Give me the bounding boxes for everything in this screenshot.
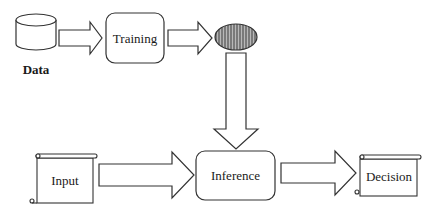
neural-net-model-icon	[215, 24, 257, 50]
training-label: Training	[113, 31, 158, 46]
arrow-input-to-inference	[99, 152, 194, 198]
decision-label: Decision	[366, 169, 413, 184]
arrow-inference-to-decision	[281, 151, 356, 195]
data-label: Data	[23, 62, 50, 77]
arrow-model-to-inference	[214, 53, 258, 149]
data-cylinder-icon	[16, 14, 56, 50]
arrow-training-to-model	[168, 22, 212, 54]
inference-label: Inference	[211, 168, 260, 183]
ml-pipeline-diagram: Data Training Input Inference Decision	[0, 0, 435, 210]
arrow-data-to-training	[59, 22, 102, 54]
input-label: Input	[51, 173, 79, 188]
